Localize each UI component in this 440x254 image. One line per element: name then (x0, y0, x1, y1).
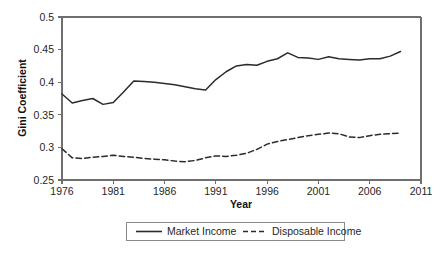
chart-canvas: 0.250.30.350.40.450.5 197619811986199119… (0, 0, 440, 254)
y-tick-label: 0.45 (34, 43, 55, 55)
x-tick-label: 2006 (358, 185, 382, 197)
x-tick-label: 1981 (102, 185, 126, 197)
gini-coefficient-line-chart: 0.250.30.350.40.450.5 197619811986199119… (0, 0, 440, 254)
x-tick-label: 1976 (50, 185, 74, 197)
legend-label-disposable-income: Disposable Income (272, 225, 361, 237)
x-tick-label: 1996 (255, 185, 279, 197)
x-tick-label: 2001 (307, 185, 331, 197)
data-series-group (62, 52, 400, 162)
y-axis-ticks: 0.250.30.350.40.450.5 (34, 11, 62, 186)
legend-label-market-income: Market Income (167, 225, 237, 237)
series-disposable-income (62, 133, 400, 162)
x-tick-label: 1986 (153, 185, 177, 197)
x-tick-label: 2011 (410, 185, 433, 197)
y-tick-label: 0.25 (34, 174, 55, 186)
y-axis-title: Gini Coefficient (16, 59, 28, 137)
series-market-income (62, 52, 400, 105)
y-tick-label: 0.4 (39, 76, 54, 88)
y-tick-label: 0.3 (39, 141, 54, 153)
x-axis-ticks: 19761981198619911996200120062011 (50, 180, 432, 197)
x-tick-label: 1991 (204, 185, 228, 197)
x-axis-title: Year (230, 198, 252, 210)
y-tick-label: 0.35 (34, 109, 55, 121)
y-tick-label: 0.5 (39, 11, 54, 23)
chart-legend: Market Income Disposable Income (127, 223, 362, 241)
